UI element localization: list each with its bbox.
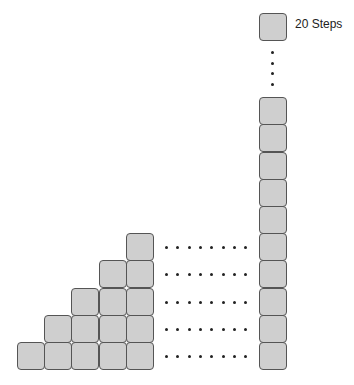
step-block bbox=[259, 288, 287, 316]
ellipsis-dot bbox=[176, 328, 179, 331]
step-block bbox=[259, 233, 287, 261]
ellipsis-dot bbox=[233, 273, 236, 276]
ellipsis-dot bbox=[199, 328, 202, 331]
ellipsis-dot bbox=[188, 355, 191, 358]
ellipsis-dot bbox=[165, 328, 168, 331]
step-block bbox=[99, 288, 127, 316]
step-block bbox=[99, 260, 127, 288]
step-block bbox=[259, 179, 287, 207]
ellipsis-dot bbox=[244, 328, 247, 331]
ellipsis-dot bbox=[244, 273, 247, 276]
ellipsis-dot bbox=[244, 246, 247, 249]
ellipsis-dot bbox=[210, 355, 213, 358]
step-block bbox=[259, 152, 287, 180]
ellipsis-dot bbox=[222, 355, 225, 358]
ellipsis-dot bbox=[233, 246, 236, 249]
ellipsis-dot bbox=[165, 355, 168, 358]
step-block bbox=[71, 315, 99, 343]
ellipsis-dot bbox=[199, 301, 202, 304]
step-block bbox=[17, 342, 45, 370]
ellipsis-dot bbox=[233, 355, 236, 358]
ellipsis-dot bbox=[271, 62, 274, 65]
ellipsis-dot bbox=[271, 72, 274, 75]
step-block bbox=[126, 315, 154, 343]
ellipsis-dot bbox=[188, 301, 191, 304]
ellipsis-dot bbox=[188, 273, 191, 276]
ellipsis-dot bbox=[176, 273, 179, 276]
step-block bbox=[126, 233, 154, 261]
step-block bbox=[259, 342, 287, 370]
ellipsis-dot bbox=[210, 328, 213, 331]
step-block bbox=[99, 342, 127, 370]
ellipsis-dot bbox=[188, 328, 191, 331]
step-block bbox=[44, 315, 72, 343]
step-block bbox=[259, 260, 287, 288]
step-block bbox=[71, 342, 99, 370]
ellipsis-dot bbox=[222, 273, 225, 276]
ellipsis-dot bbox=[176, 301, 179, 304]
step-block bbox=[259, 97, 287, 125]
ellipsis-dot bbox=[176, 246, 179, 249]
ellipsis-dot bbox=[165, 273, 168, 276]
ellipsis-dot bbox=[210, 246, 213, 249]
steps-label: 20 Steps bbox=[295, 17, 342, 31]
step-block bbox=[259, 206, 287, 234]
ellipsis-dot bbox=[210, 273, 213, 276]
ellipsis-dot bbox=[165, 246, 168, 249]
step-block bbox=[126, 260, 154, 288]
ellipsis-dot bbox=[271, 83, 274, 86]
step-block bbox=[99, 315, 127, 343]
ellipsis-dot bbox=[199, 355, 202, 358]
ellipsis-dot bbox=[222, 246, 225, 249]
ellipsis-dot bbox=[244, 301, 247, 304]
ellipsis-dot bbox=[188, 246, 191, 249]
ellipsis-dot bbox=[176, 355, 179, 358]
ellipsis-dot bbox=[244, 355, 247, 358]
step-block bbox=[126, 288, 154, 316]
step-block bbox=[126, 342, 154, 370]
ellipsis-dot bbox=[222, 328, 225, 331]
step-block bbox=[44, 342, 72, 370]
ellipsis-dot bbox=[199, 246, 202, 249]
step-block bbox=[259, 13, 287, 41]
ellipsis-dot bbox=[233, 301, 236, 304]
step-block bbox=[71, 288, 99, 316]
ellipsis-dot bbox=[233, 328, 236, 331]
ellipsis-dot bbox=[210, 301, 213, 304]
step-block bbox=[259, 315, 287, 343]
ellipsis-dot bbox=[199, 273, 202, 276]
ellipsis-dot bbox=[165, 301, 168, 304]
step-block bbox=[259, 124, 287, 152]
ellipsis-dot bbox=[222, 301, 225, 304]
ellipsis-dot bbox=[271, 51, 274, 54]
